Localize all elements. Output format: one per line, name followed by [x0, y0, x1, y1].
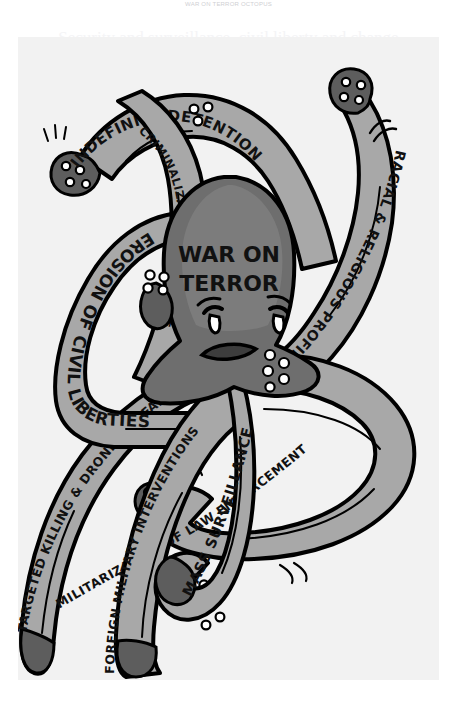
- head-label-line1: WAR ON: [178, 242, 280, 267]
- head-label-line2: TERROR: [179, 271, 279, 296]
- sucker: [62, 162, 70, 170]
- sucker: [82, 180, 90, 188]
- sucker: [355, 96, 363, 104]
- war-on-terror-octopus-illustration: .ink { stroke:#000; fill:none; stroke-li…: [18, 37, 439, 680]
- sucker: [342, 78, 350, 86]
- sucker: [202, 621, 211, 630]
- sucker: [216, 613, 225, 622]
- sucker: [357, 81, 365, 89]
- sucker: [66, 178, 74, 186]
- watermark-top-text: WAR ON TERROR OCTOPUS: [0, 1, 457, 7]
- sucker: [340, 93, 348, 101]
- illustration-canvas: .ink { stroke:#000; fill:none; stroke-li…: [18, 37, 439, 680]
